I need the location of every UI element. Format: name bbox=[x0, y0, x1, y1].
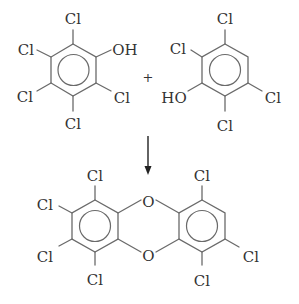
plus-sign: + bbox=[143, 70, 154, 85]
cl-label: Cl bbox=[194, 272, 210, 290]
reaction-diagram: Cl Cl OH Cl Cl Cl + Cl Cl HO Cl Cl bbox=[0, 0, 299, 304]
cl-label: Cl bbox=[17, 88, 33, 106]
oh-label: OH bbox=[112, 41, 137, 59]
aromatic-circle bbox=[187, 211, 218, 242]
cl-label: Cl bbox=[87, 271, 103, 289]
cl-label: Cl bbox=[217, 10, 233, 28]
benzene-ring-right bbox=[179, 200, 225, 252]
aromatic-circle bbox=[210, 55, 241, 86]
cl-label: Cl bbox=[37, 196, 53, 214]
reactant-1-pentachlorophenol: Cl Cl OH Cl Cl Cl bbox=[17, 10, 138, 133]
cl-label: Cl bbox=[114, 89, 130, 107]
cl-label: Cl bbox=[87, 167, 103, 185]
reaction-arrow bbox=[145, 136, 152, 175]
cl-label: Cl bbox=[65, 115, 81, 133]
product-dioxin: O O Cl Cl Cl Cl Cl Cl Cl bbox=[37, 167, 259, 290]
cl-label: Cl bbox=[37, 248, 53, 266]
cl-label: Cl bbox=[265, 89, 281, 107]
benzene-ring bbox=[202, 44, 248, 96]
ho-label: HO bbox=[161, 89, 186, 107]
oxygen-label: O bbox=[142, 247, 154, 265]
aromatic-circle bbox=[80, 211, 111, 242]
oxygen-label: O bbox=[142, 193, 154, 211]
cl-label: Cl bbox=[18, 41, 34, 59]
cl-label: Cl bbox=[170, 40, 186, 58]
reactant-2-tetrachlorophenol: Cl Cl HO Cl Cl bbox=[161, 10, 281, 135]
cl-label: Cl bbox=[243, 248, 259, 266]
aromatic-circle bbox=[58, 55, 89, 86]
cl-label: Cl bbox=[65, 10, 81, 28]
cl-label: Cl bbox=[194, 167, 210, 185]
cl-label: Cl bbox=[217, 117, 233, 135]
arrow-head-icon bbox=[145, 166, 152, 175]
